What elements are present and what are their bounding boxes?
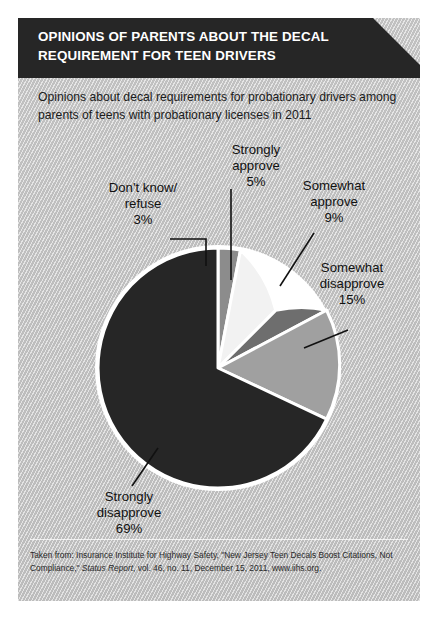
header-bar: OPINIONS OF PARENTS ABOUT THE DECAL REQU… [18,18,420,78]
infographic-card: OPINIONS OF PARENTS ABOUT THE DECAL REQU… [18,18,420,601]
pie-slice-dont-know-refuse [218,248,241,368]
slice-label-somewhat-disapprove-line-2: disapprove [320,276,385,291]
slice-label-dont-know-refuse: Don't know/ refuse 3% [80,180,206,228]
source-publication: Status Report [82,563,133,573]
slice-value-somewhat-approve: 9% [274,210,394,226]
slice-label-strongly-disapprove: Strongly disapprove 69% [54,489,204,537]
slice-label-dont-know-refuse-line-2: refuse [125,196,162,211]
page-title: OPINIONS OF PARENTS ABOUT THE DECAL REQU… [38,27,368,65]
slice-label-somewhat-disapprove-line-1: Somewhat [321,260,383,275]
slice-label-strongly-disapprove-line-1: Strongly [105,489,153,504]
page-title-line-1: OPINIONS OF PARENTS ABOUT THE DECAL [38,29,329,44]
slice-value-somewhat-disapprove: 15% [286,292,418,308]
leader-line-strongly-disapprove [132,448,158,486]
slice-label-strongly-disapprove-line-2: disapprove [97,505,162,520]
slice-label-somewhat-disapprove: Somewhat disapprove 15% [286,260,418,308]
slice-label-somewhat-approve-line-1: Somewhat [303,178,365,193]
source-citation: Taken from: Insurance Institute for High… [30,549,410,575]
leader-line-dont-know-refuse [170,239,206,266]
slice-label-strongly-approve-line-2: approve [232,158,280,173]
screenshot-root: OPINIONS OF PARENTS ABOUT THE DECAL REQU… [0,0,438,625]
slice-label-dont-know-refuse-line-1: Don't know/ [109,180,178,195]
source-suffix: , vol. 46, no. 11, December 15, 2011, ww… [133,563,321,573]
slice-value-dont-know-refuse: 3% [80,212,206,228]
slice-label-somewhat-approve: Somewhat approve 9% [274,178,394,226]
pie-slice-somewhat-disapprove [218,310,340,419]
pie-slice-strongly-approve [218,250,276,368]
footer-divider [30,539,408,540]
pie-slice-somewhat-approve [218,308,327,368]
slice-label-somewhat-approve-line-2: approve [310,194,358,209]
leader-line-somewhat-disapprove [304,330,348,348]
slice-label-strongly-approve-line-1: Strongly [232,142,280,157]
chart-subtitle: Opinions about decal requirements for pr… [38,89,400,124]
page-title-line-2: REQUIREMENT FOR TEEN DRIVERS [38,46,368,65]
slice-value-strongly-disapprove: 69% [54,521,204,537]
